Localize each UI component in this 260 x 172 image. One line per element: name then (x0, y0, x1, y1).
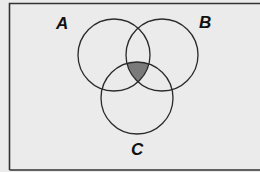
set-b-circle (126, 19, 198, 91)
set-a-label: A (56, 15, 68, 32)
venn-diagram: A B C (0, 0, 260, 172)
venn-svg (0, 0, 260, 172)
set-b-label: B (199, 14, 211, 31)
set-c-label: C (131, 141, 143, 158)
set-a-circle (78, 19, 150, 91)
